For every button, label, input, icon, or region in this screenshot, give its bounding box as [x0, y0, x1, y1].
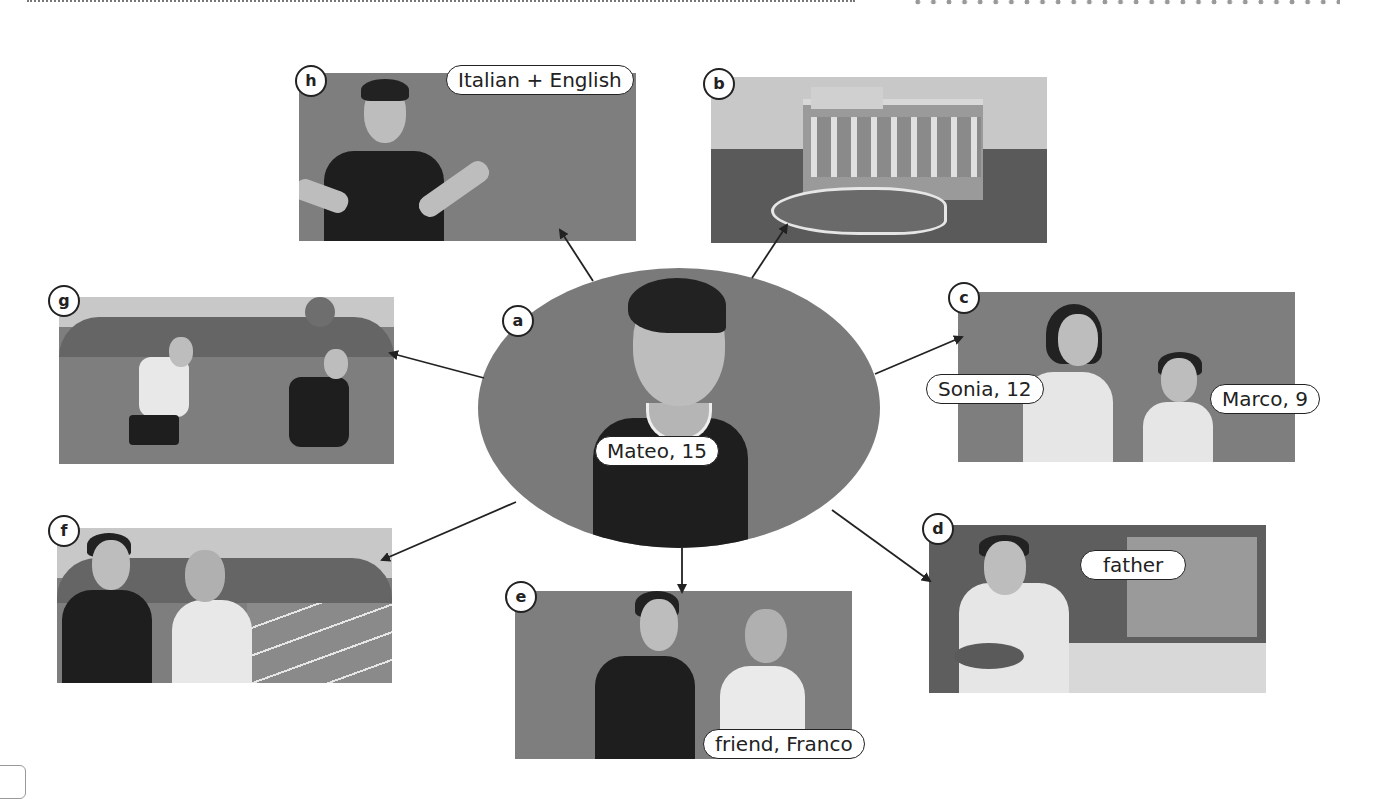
label-friend-franco: friend, Franco [703, 729, 865, 759]
mateo-figure [299, 73, 636, 241]
letter-f-badge: f [48, 515, 80, 547]
player-dark-shirt [289, 377, 349, 447]
marco-figure [1143, 402, 1213, 462]
label-sonia-12: Sonia, 12 [926, 374, 1044, 404]
mateo-hair [628, 278, 726, 333]
label-mateo-15: Mateo, 15 [595, 436, 719, 466]
top-dotted-rule-right [910, 0, 1340, 6]
arrow-to-g [390, 353, 484, 378]
top-dotted-rule [27, 0, 855, 5]
label-father: father [1080, 550, 1186, 580]
panel-f-tennis [57, 528, 392, 683]
fish-counter [1041, 643, 1266, 693]
page-number-box [0, 765, 26, 799]
fountain-facade [811, 87, 883, 109]
label-italian-english: Italian + English [446, 65, 634, 95]
father-apron [959, 583, 1069, 693]
letter-h-badge: h [295, 65, 327, 97]
letter-c-badge: c [948, 282, 980, 314]
boy-dark-shirt [62, 590, 152, 683]
arrow-to-f [382, 502, 516, 560]
fountain-pool [771, 187, 947, 235]
arrow-to-c [875, 337, 962, 374]
boy-white-shirt [172, 600, 252, 683]
fountain-columns [811, 117, 981, 177]
letter-g-badge: g [48, 285, 80, 317]
center-oval-mateo [478, 268, 880, 548]
letter-b-badge: b [703, 68, 735, 100]
football-ball [305, 297, 335, 327]
letter-e-badge: e [505, 581, 537, 613]
panel-h-languages [299, 73, 636, 241]
tennis-court [247, 603, 392, 683]
letter-a-badge: a [502, 305, 534, 337]
mateo-figure-e [595, 656, 695, 759]
arrow-to-d [832, 510, 930, 581]
panel-g-football [59, 297, 394, 464]
label-marco-9: Marco, 9 [1210, 384, 1320, 414]
letter-d-badge: d [922, 513, 954, 545]
fish-in-hands [954, 643, 1024, 669]
panel-b-trevi-fountain [711, 77, 1047, 243]
